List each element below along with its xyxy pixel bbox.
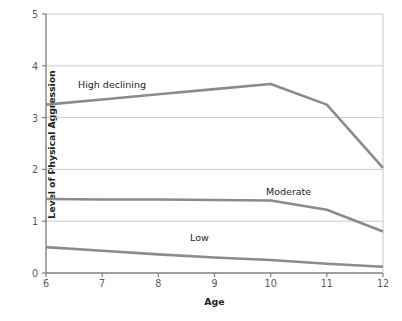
plot-area xyxy=(0,0,402,321)
series-lines xyxy=(46,84,383,267)
axis-lines xyxy=(46,14,383,273)
axis-tick-marks xyxy=(42,14,383,277)
aggression-trajectory-chart: Level of Physical Aggression Age 012345 … xyxy=(0,0,402,321)
series-line-1 xyxy=(46,199,383,232)
series-line-0 xyxy=(46,84,383,168)
series-line-2 xyxy=(46,247,383,267)
gridlines xyxy=(46,14,383,221)
